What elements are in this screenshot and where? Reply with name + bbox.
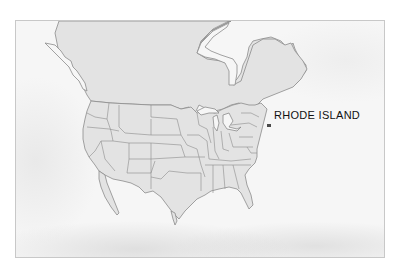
map-frame bbox=[15, 20, 385, 258]
canada-mainland bbox=[55, 21, 307, 113]
rhode-island-marker bbox=[267, 124, 271, 127]
north-america-map bbox=[16, 21, 385, 258]
rhode-island-label: RHODE ISLAND bbox=[274, 109, 360, 121]
